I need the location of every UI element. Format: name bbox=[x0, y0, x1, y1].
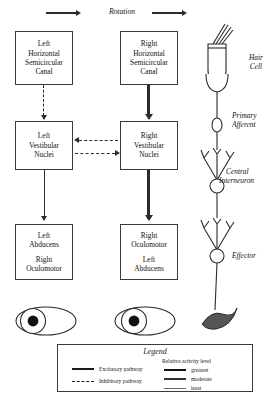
box-line: Canal bbox=[35, 67, 52, 76]
legend-title: Legend bbox=[58, 347, 252, 356]
box-left-horizontal-semicircular-canal[interactable]: Left Horizontal Semicircular Canal bbox=[15, 31, 73, 85]
legend-item-inhibitory: Inhibitory pathway bbox=[72, 378, 142, 384]
box-line: Horizontal bbox=[133, 49, 165, 58]
connector-right-canal-arrowhead bbox=[145, 114, 153, 120]
box-line: Left bbox=[38, 131, 50, 140]
box-line: Nuclei bbox=[139, 150, 159, 159]
label-hair-cell-line2: Cell bbox=[239, 62, 273, 71]
commissural-arrow-head-right bbox=[115, 150, 120, 156]
effector-neuron-dendrites bbox=[201, 218, 234, 250]
legend-label: least bbox=[191, 385, 201, 391]
medium-line-swatch-icon bbox=[164, 378, 186, 380]
legend-item-least: least bbox=[164, 385, 201, 391]
connector-left-canal-arrowhead bbox=[41, 115, 47, 120]
label-hair-cell-line1: Hair bbox=[239, 53, 273, 62]
legend-item-moderate: moderate bbox=[164, 376, 212, 382]
box-line: Vestibular bbox=[29, 141, 59, 150]
commissural-arrow-leftward-to-right-shaft bbox=[75, 153, 115, 154]
box-right-vestibular-nuclei[interactable]: Right Vestibular Nuclei bbox=[120, 121, 178, 170]
solid-line-swatch-icon bbox=[72, 368, 94, 370]
motor-axon bbox=[215, 263, 217, 310]
box-left-abducens-right-oculomotor[interactable]: Left Abducens Right Oculomotor bbox=[15, 224, 73, 280]
legend-label: greatest bbox=[191, 367, 208, 373]
box-line: Oculomotor bbox=[131, 240, 167, 249]
box-line: Horizontal bbox=[28, 49, 60, 58]
legend-item-greatest: greatest bbox=[164, 367, 208, 373]
box-line: Abducens bbox=[134, 264, 164, 273]
box-left-vestibular-nuclei[interactable]: Left Vestibular Nuclei bbox=[15, 121, 73, 170]
right-eye-illustration bbox=[113, 300, 177, 342]
rotation-arrow-right-head bbox=[182, 10, 187, 16]
label-primary-afferent-line2: Afferent bbox=[232, 120, 256, 129]
legend-panel: Legend Excitatory pathway Inhibitory pat… bbox=[57, 344, 253, 392]
label-central-interneuron-line2: Interneuron bbox=[219, 176, 254, 185]
box-line: Right bbox=[141, 39, 157, 48]
label-primary-afferent-line1: Primary bbox=[232, 111, 257, 120]
box-line: Vestibular bbox=[134, 141, 164, 150]
box-line: Left bbox=[38, 231, 50, 240]
rotation-label: Rotation bbox=[96, 7, 148, 16]
connector-left-nuclei-arrowhead bbox=[41, 216, 47, 221]
legend-label: Excitatory pathway bbox=[99, 366, 143, 372]
muscle-effector-icon bbox=[202, 308, 237, 329]
box-line: Right bbox=[36, 255, 52, 264]
dashed-line-swatch-icon bbox=[72, 381, 94, 382]
rotation-arrow-left-shaft bbox=[46, 12, 76, 14]
rotation-arrow-left-head bbox=[76, 10, 81, 16]
connector-right-nuclei-to-right-motor bbox=[147, 170, 150, 219]
box-line: Abducens bbox=[29, 240, 59, 249]
box-line: Right bbox=[141, 231, 157, 240]
thin-line-swatch-icon bbox=[164, 388, 186, 389]
box-line: Right bbox=[141, 131, 157, 140]
label-central-interneuron-line1: Central bbox=[226, 167, 249, 176]
legend-label: Inhibitory pathway bbox=[99, 378, 142, 384]
vor-pathway-diagram: Rotation Left Horizontal Semicircular Ca… bbox=[0, 0, 275, 404]
label-effector: Effector bbox=[232, 251, 256, 260]
connector-left-nuclei-to-left-motor bbox=[44, 170, 45, 219]
connector-right-nuclei-arrowhead bbox=[145, 215, 153, 221]
effector-neuron-soma bbox=[210, 249, 224, 263]
legend-activity-heading: Relative activity level bbox=[162, 358, 211, 364]
pupil bbox=[28, 316, 39, 327]
box-right-horizontal-semicircular-canal[interactable]: Right Horizontal Semicircular Canal bbox=[120, 31, 178, 85]
box-line: Nuclei bbox=[34, 150, 54, 159]
box-line: Oculomotor bbox=[26, 264, 62, 273]
box-line: Semicircular bbox=[25, 58, 63, 67]
legend-label: moderate bbox=[191, 376, 212, 382]
afferent-terminal-cup bbox=[206, 74, 228, 92]
commissural-arrow-head-left bbox=[74, 137, 79, 143]
box-right-oculomotor-left-abducens[interactable]: Right Oculomotor Left Abducens bbox=[120, 224, 178, 280]
box-line: Left bbox=[38, 39, 50, 48]
commissural-arrow-rightward-to-left-shaft bbox=[79, 140, 118, 141]
pupil bbox=[129, 316, 140, 327]
left-eye-illustration bbox=[14, 300, 78, 342]
box-line: Canal bbox=[140, 67, 157, 76]
legend-item-excitatory: Excitatory pathway bbox=[72, 366, 143, 372]
primary-afferent-soma bbox=[212, 118, 222, 132]
connector-right-canal-to-right-nuclei bbox=[147, 85, 150, 116]
connector-left-canal-to-left-nuclei bbox=[43, 85, 44, 116]
thick-line-swatch-icon bbox=[164, 369, 186, 372]
stereocilia-icon bbox=[213, 24, 233, 44]
box-line: Semicircular bbox=[130, 58, 168, 67]
box-line: Left bbox=[143, 255, 155, 264]
rotation-arrow-right-shaft bbox=[152, 12, 182, 14]
